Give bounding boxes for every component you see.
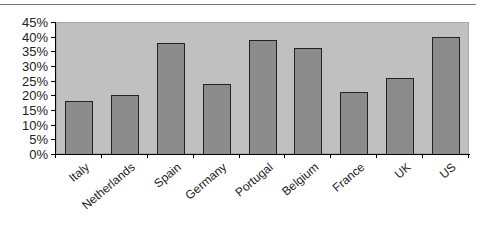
bar-italy [65, 101, 93, 155]
x-tick-mark [101, 154, 102, 158]
x-tick-label: Italy [66, 160, 92, 185]
x-axis [55, 154, 470, 155]
x-tick-label: Spain [151, 160, 184, 190]
bar-portugal [249, 40, 277, 155]
bar-netherlands [111, 95, 139, 155]
bar-france [340, 92, 368, 155]
y-tick-label: 15% [0, 104, 48, 117]
y-tick-label: 20% [0, 89, 48, 102]
x-tick-label: UK [391, 160, 413, 181]
y-axis [55, 22, 56, 155]
y-tick-label: 35% [0, 45, 48, 58]
y-tick-mark [51, 22, 55, 23]
y-tick-label: 25% [0, 75, 48, 88]
x-tick-mark [422, 154, 423, 158]
y-tick-mark [51, 66, 55, 67]
y-tick-mark [51, 51, 55, 52]
x-tick-mark [239, 154, 240, 158]
x-tick-label: France [330, 160, 368, 195]
y-tick-label: 30% [0, 60, 48, 73]
y-tick-label: 0% [0, 148, 48, 161]
x-tick-label: Belgium [279, 160, 321, 199]
x-tick-mark [330, 154, 331, 158]
x-tick-mark [147, 154, 148, 158]
bar-us [432, 37, 460, 155]
x-tick-mark [376, 154, 377, 158]
x-tick-mark [284, 154, 285, 158]
bar-belgium [294, 48, 322, 155]
y-tick-mark [51, 110, 55, 111]
x-tick-label: US [437, 160, 459, 181]
y-tick-label: 5% [0, 133, 48, 146]
y-tick-mark [51, 81, 55, 82]
x-tick-mark [193, 154, 194, 158]
y-tick-mark [51, 95, 55, 96]
y-tick-label: 10% [0, 119, 48, 132]
y-tick-mark [51, 139, 55, 140]
bar-uk [386, 78, 414, 155]
y-tick-label: 40% [0, 31, 48, 44]
x-tick-label: Portugal [232, 160, 275, 199]
bar-germany [203, 84, 231, 155]
x-tick-mark [55, 154, 56, 158]
y-tick-mark [51, 125, 55, 126]
y-tick-label: 45% [0, 16, 48, 29]
x-tick-label: Germany [183, 160, 230, 202]
y-tick-mark [51, 37, 55, 38]
top-divider [0, 4, 476, 5]
x-tick-mark [468, 154, 469, 158]
bar-spain [157, 43, 185, 155]
